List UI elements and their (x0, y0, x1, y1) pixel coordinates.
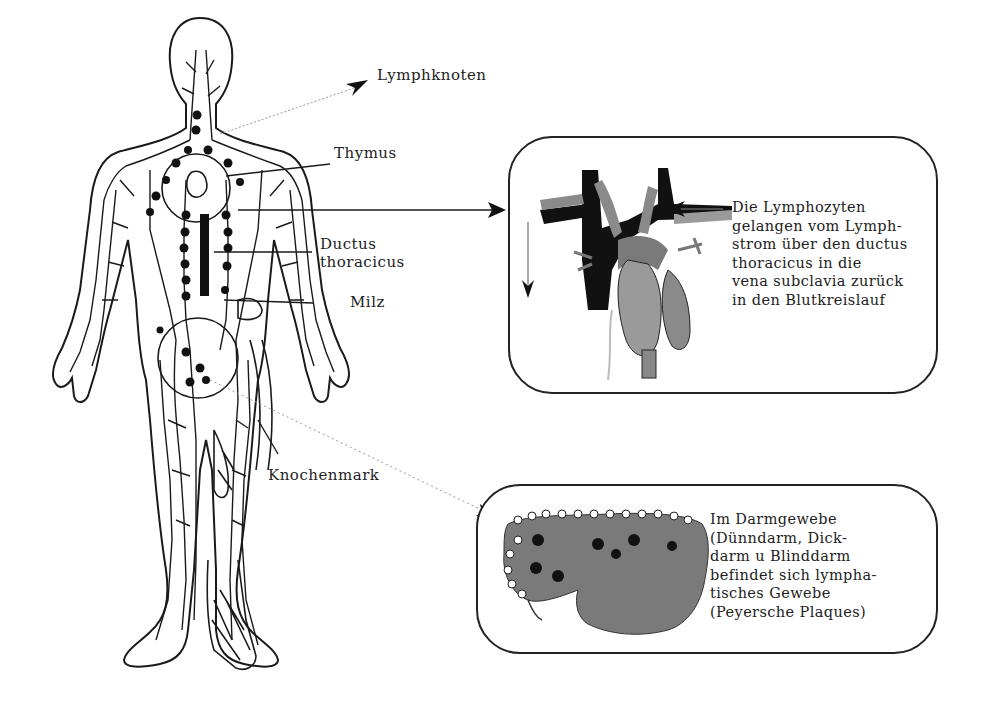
label-milz: Milz (350, 294, 385, 311)
lymphknoten-arrowhead (346, 80, 368, 96)
intestine-box-text: Im Darmgewebe (Dünndarm, Dick- darm u Bl… (710, 510, 877, 621)
label-ductus: Ductus (320, 236, 376, 253)
lymph-vessels (70, 50, 334, 645)
label-lymphknoten: Lymphknoten (377, 67, 487, 84)
heart-box-text: Die Lymphozyten gelangen vom Lymph- stro… (732, 198, 908, 309)
thymus-circle (162, 154, 230, 222)
intestine-illustration (488, 494, 718, 644)
ductus-thoracicus-vessel (200, 214, 209, 296)
heart-vessels-illustration (518, 140, 738, 390)
thymus-organ (187, 171, 207, 197)
femur-bone (250, 340, 272, 470)
intestine-info-box: Im Darmgewebe (Dünndarm, Dick- darm u Bl… (476, 484, 938, 654)
knochenmark-leader (258, 420, 278, 454)
knee-joint (214, 430, 234, 498)
heart-info-box: Die Lymphozyten gelangen vom Lymph- stro… (508, 136, 938, 394)
label-thymus: Thymus (334, 145, 397, 162)
abdomen-circle (158, 318, 238, 398)
lymphknoten-leader (220, 86, 360, 134)
label-thoracicus: thoracicus (320, 254, 405, 271)
label-knochenmark: Knochenmark (268, 467, 379, 484)
inflow-arrow-icon (665, 199, 725, 219)
